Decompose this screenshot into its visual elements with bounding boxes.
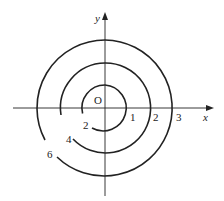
diagram-canvas: O 1 2 3 x y 2 4 6 xyxy=(0,0,224,201)
x-tick-1: 1 xyxy=(130,111,136,123)
level-label-2: 2 xyxy=(83,119,89,131)
x-tick-3: 3 xyxy=(176,111,182,123)
level-curve-diagram: O 1 2 3 x y 2 4 6 xyxy=(0,0,224,201)
y-axis-arrow-icon xyxy=(102,12,108,20)
y-axis-label: y xyxy=(94,12,100,24)
x-axis-label: x xyxy=(202,111,208,123)
origin-label: O xyxy=(94,94,102,106)
level-label-6: 6 xyxy=(47,148,53,160)
x-tick-2: 2 xyxy=(153,111,159,123)
level-label-4: 4 xyxy=(66,133,72,145)
